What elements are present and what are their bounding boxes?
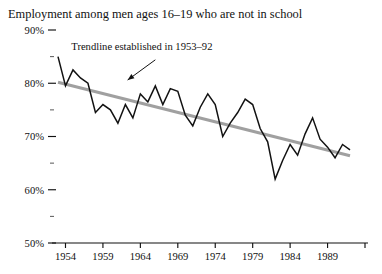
x-tick-label-1984: 1984 [280,251,302,262]
x-tick-label-1964: 1964 [130,251,152,262]
x-tick-label-1979: 1979 [242,251,263,262]
x-axis: 19541959196419691974197919841989 [52,243,368,262]
y-tick-label-50: 50% [25,238,45,249]
trendline-annotation: Trendline established in 1953–92 [71,41,212,80]
chart-title-group: Employment among men ages 16–19 who are … [8,7,303,21]
y-tick-label-80: 80% [25,78,45,89]
trendline-series [58,82,350,155]
y-axis: 90%80%70%60%50% [25,25,56,249]
y-tick-label-60: 60% [25,185,45,196]
x-tick-label-1959: 1959 [92,251,113,262]
y-tick-label-90: 90% [25,25,45,36]
x-tick-label-1974: 1974 [205,251,227,262]
y-tick-label-70: 70% [25,131,45,142]
x-tick-label-1989: 1989 [317,251,338,262]
page-title: Employment among men ages 16–19 who are … [8,7,303,21]
trendline-path [58,82,350,155]
x-tick-label-1969: 1969 [167,251,188,262]
annotation-label: Trendline established in 1953–92 [71,41,212,52]
annotation-arrow-head [128,74,135,80]
employment-line-chart: Employment among men ages 16–19 who are … [0,0,382,274]
x-tick-label-1954: 1954 [55,251,77,262]
